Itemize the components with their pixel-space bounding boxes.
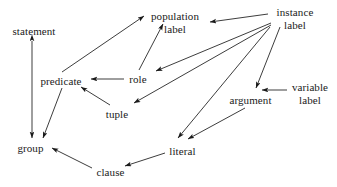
node-label-line: statement — [8, 25, 60, 38]
node-label-line: variable — [290, 81, 330, 94]
node-group: group — [14, 142, 47, 155]
edge-predicate-group — [43, 88, 62, 138]
node-argument: argument — [228, 94, 273, 107]
node-literal: literal — [167, 145, 198, 158]
node-role: role — [127, 73, 149, 86]
edge-literal-clause — [125, 153, 165, 166]
node-label-line: predicate — [36, 75, 86, 88]
entity-relationship-diagram: statementpredicategrouppopulationlabelro… — [0, 0, 337, 187]
edge-argument-literal — [188, 108, 245, 139]
node-label-line: label — [290, 94, 330, 107]
edge-instance-population — [210, 14, 268, 22]
node-label-line: tuple — [104, 108, 130, 121]
edge-instance-literal — [178, 27, 270, 138]
node-label-line: argument — [228, 94, 273, 107]
edge-clause-group — [52, 148, 92, 168]
node-label-line: clause — [94, 166, 127, 179]
node-variable-label: variablelabel — [290, 81, 330, 106]
node-label-line: literal — [167, 145, 198, 158]
node-label-line: label — [148, 23, 202, 36]
edge-predicate-population — [62, 16, 144, 72]
edge-instance-argument — [256, 27, 280, 88]
node-label-line: population — [148, 10, 202, 23]
node-clause: clause — [94, 166, 127, 179]
node-label-line: role — [127, 73, 149, 86]
node-label-line: label — [272, 19, 318, 32]
edge-tuple-predicate — [81, 87, 110, 105]
node-label-line: instance — [272, 6, 318, 19]
node-tuple: tuple — [104, 108, 130, 121]
node-label-line: group — [14, 142, 47, 155]
node-instance-label: instancelabel — [272, 6, 318, 31]
node-statement: statement — [8, 25, 60, 38]
node-predicate: predicate — [36, 75, 86, 88]
edge-instance-tuple — [134, 25, 271, 103]
node-population-label: populationlabel — [148, 10, 202, 35]
